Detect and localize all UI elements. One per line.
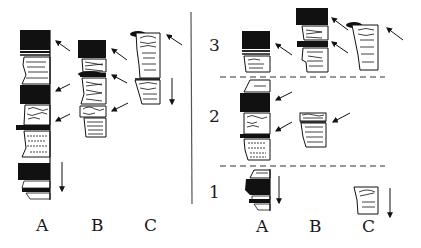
arrow-icon — [112, 49, 127, 60]
panel-divider — [191, 12, 192, 204]
right-zone3-column-b — [296, 8, 328, 72]
arrow-icon — [56, 84, 70, 91]
left-column-c — [130, 31, 160, 104]
arrow-icon — [167, 35, 182, 45]
arrow-icon — [276, 44, 292, 55]
zone-label-1: 1 — [209, 184, 220, 201]
arrow-icon — [332, 42, 348, 53]
arrow-icon — [332, 18, 348, 30]
right-zone2-column-a — [240, 80, 270, 160]
left-column-a — [16, 30, 50, 200]
right-zone3-column-a — [242, 31, 270, 72]
left-column-b — [78, 40, 106, 137]
left-column-label-a: A — [36, 217, 48, 234]
right-column-label-b: B — [309, 218, 322, 235]
arrow-icon — [276, 122, 292, 131]
stratigraphic-correlation-diagram: A B C A B C 3 2 1 — [0, 0, 421, 248]
zone-label-3: 3 — [209, 37, 220, 54]
zone-label-2: 2 — [209, 108, 220, 125]
right-zone1-column-c — [354, 187, 378, 214]
left-column-label-b: B — [91, 217, 104, 234]
right-zone2-column-b — [300, 113, 326, 147]
arrow-icon — [112, 75, 127, 83]
arrow-icon — [387, 28, 403, 40]
arrow-icon — [112, 103, 128, 111]
right-column-label-c: C — [362, 218, 375, 235]
arrow-icon — [276, 92, 292, 100]
right-zone1-column-a — [245, 169, 270, 211]
arrow-icon — [56, 114, 70, 121]
arrow-icon — [56, 41, 70, 51]
right-column-label-a: A — [256, 218, 268, 235]
right-zone3-column-c — [346, 22, 378, 70]
arrow-icon — [333, 113, 350, 122]
left-column-label-c: C — [144, 217, 157, 234]
